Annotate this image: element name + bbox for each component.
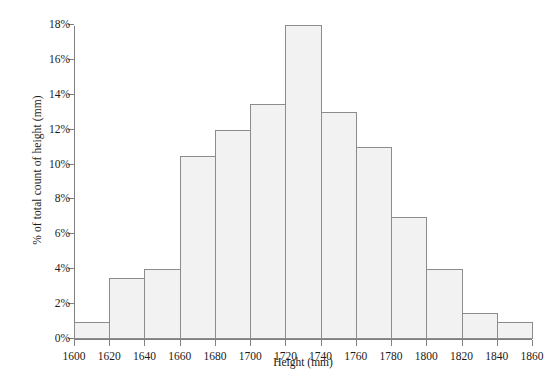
x-tick-mark-1860 xyxy=(532,340,533,346)
x-tick-mark-1720 xyxy=(285,340,286,346)
histogram-bar xyxy=(74,322,110,339)
x-tick-mark-1740 xyxy=(321,340,322,346)
y-tick-label: 10% xyxy=(49,155,70,173)
y-tick-label: 16% xyxy=(49,50,70,68)
histogram-bar xyxy=(285,25,321,339)
x-tick-mark-1840 xyxy=(497,340,498,346)
x-tick-mark-1820 xyxy=(462,340,463,346)
y-tick-label: 18% xyxy=(49,15,70,33)
x-tick-mark-1700 xyxy=(250,340,251,346)
histogram-bar xyxy=(391,217,427,339)
x-tick-mark-1760 xyxy=(356,340,357,346)
y-tick-label: 2% xyxy=(55,294,70,312)
histogram-bar xyxy=(215,130,251,339)
x-tick-mark-1660 xyxy=(180,340,181,346)
x-tick-mark-1780 xyxy=(391,340,392,346)
histogram-bar xyxy=(356,147,392,339)
y-tick-label: 12% xyxy=(49,120,70,138)
x-axis-line xyxy=(74,339,532,340)
y-axis-line xyxy=(74,26,75,340)
x-tick-mark-1620 xyxy=(109,340,110,346)
x-tick-mark-1640 xyxy=(144,340,145,346)
y-axis-title: % of total count of height (mm) xyxy=(26,0,48,340)
y-tick-label: 0% xyxy=(55,329,70,347)
y-tick-label: 14% xyxy=(49,85,70,103)
x-tick-mark-1600 xyxy=(74,340,75,346)
plot-area: 0%2%4%6%8%10%12%14%16%18% 16001620164016… xyxy=(74,26,532,340)
histogram-bar xyxy=(497,322,533,339)
histogram-bar xyxy=(250,104,286,340)
histogram-bar xyxy=(144,269,180,339)
y-tick-label: 4% xyxy=(55,259,70,277)
histogram-bar xyxy=(426,269,462,339)
faint-caption-artifact xyxy=(60,374,490,384)
histogram-bar xyxy=(180,156,216,339)
x-axis-title: Height (mm) xyxy=(74,356,532,368)
histogram-bar xyxy=(462,313,498,339)
histogram-bar xyxy=(109,278,145,339)
y-tick-label: 6% xyxy=(55,224,70,242)
histogram-bar xyxy=(321,112,357,339)
y-tick-label: 8% xyxy=(55,189,70,207)
x-tick-mark-1800 xyxy=(426,340,427,346)
x-tick-mark-1680 xyxy=(215,340,216,346)
histogram-figure: % of total count of height (mm) 0%2%4%6%… xyxy=(0,0,549,388)
